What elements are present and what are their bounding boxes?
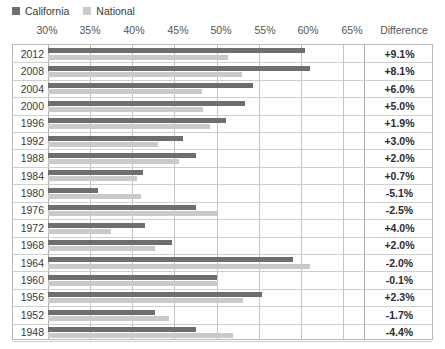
difference-value: +3.0% [365,132,434,149]
legend-item-national: National [83,5,135,17]
plot-area: 2012+9.1%2008+8.1%2004+6.0%2000+5.0%1996… [12,44,433,340]
bar-national [48,89,202,94]
bar-california [48,170,143,175]
square-swatch-icon [83,7,91,15]
chart-row: 1948-4.4% [13,324,432,341]
axis-tick-label: 30% [36,24,57,36]
chart-row: 2000+5.0% [13,97,432,114]
chart-row: 1992+3.0% [13,132,432,149]
bar-california [48,257,293,262]
bar-national [48,264,310,269]
axis-tick-label: 45% [167,24,188,36]
chart-row: 2012+9.1% [13,45,432,62]
difference-value: +5.0% [365,97,434,114]
row-divider [13,341,432,342]
chart-row: 1984+0.7% [13,167,432,184]
difference-value: -2.5% [365,202,434,219]
axis-tick-label: 55% [254,24,275,36]
difference-value: +2.0% [365,237,434,254]
difference-value: -1.7% [365,306,434,323]
square-swatch-icon [12,7,20,15]
bar-national [48,72,242,77]
difference-value: +4.0% [365,219,434,236]
chart-row: 1996+1.9% [13,115,432,132]
row-year-label: 1956 [13,289,48,306]
row-year-label: 1968 [13,237,48,254]
row-year-label: 2000 [13,97,48,114]
difference-column-header: Difference [380,24,428,36]
difference-value: +9.1% [365,45,434,62]
difference-value: +6.0% [365,80,434,97]
bar-california [48,118,226,123]
bar-california [48,223,145,228]
chart-legend: California National [12,5,135,17]
legend-item-california: California [12,5,69,17]
axis-tick-label: 50% [210,24,231,36]
axis-tick-label: 65% [341,24,362,36]
bar-national [48,159,179,164]
bar-national [48,176,137,181]
bar-california [48,83,253,88]
row-year-label: 2004 [13,80,48,97]
bar-california [48,205,196,210]
difference-value: -2.0% [365,254,434,271]
legend-label: California [25,5,69,17]
bar-national [48,333,233,338]
chart-row: 1956+2.3% [13,289,432,306]
difference-value: +1.9% [365,115,434,132]
bar-national [48,211,217,216]
chart-row: 2008+8.1% [13,62,432,79]
bar-california [48,101,245,106]
bar-national [48,124,210,129]
bar-california [48,327,196,332]
difference-value: -5.1% [365,184,434,201]
axis-tick-label: 35% [79,24,100,36]
row-year-label: 1976 [13,202,48,219]
bar-california [48,292,262,297]
legend-label: National [96,5,135,17]
difference-value: +8.1% [365,62,434,79]
axis-tick-labels: 30% 35% 40% 45% 50% 55% 60% 65% Differen… [0,24,445,44]
bar-california [48,48,305,53]
axis-tick-label: 60% [297,24,318,36]
chart-row: 1980-5.1% [13,184,432,201]
chart-row: 1952-1.7% [13,306,432,323]
row-year-label: 1984 [13,167,48,184]
bar-national [48,142,158,147]
bar-california [48,275,217,280]
row-year-label: 1964 [13,254,48,271]
row-year-label: 1972 [13,219,48,236]
chart-row: 1988+2.0% [13,149,432,166]
chart-row: 1972+4.0% [13,219,432,236]
row-year-label: 2012 [13,45,48,62]
difference-value: +0.7% [365,167,434,184]
chart-row: 2004+6.0% [13,80,432,97]
chart-row: 1964-2.0% [13,254,432,271]
chart-root: California National 30% 35% 40% 45% 50% … [0,0,445,349]
bar-national [48,107,203,112]
difference-value: -4.4% [365,324,434,341]
difference-value: -0.1% [365,271,434,288]
row-year-label: 1980 [13,184,48,201]
row-year-label: 1960 [13,271,48,288]
bar-national [48,316,169,321]
bar-national [48,55,228,60]
bar-california [48,153,196,158]
row-year-label: 1996 [13,115,48,132]
row-year-label: 1952 [13,306,48,323]
row-year-label: 2008 [13,62,48,79]
bar-california [48,310,155,315]
bar-national [48,229,111,234]
bar-california [48,188,98,193]
row-year-label: 1948 [13,324,48,341]
bar-california [48,136,183,141]
chart-row: 1976-2.5% [13,202,432,219]
axis-tick-label: 40% [123,24,144,36]
bar-california [48,66,310,71]
bar-california [48,240,172,245]
bar-national [48,298,243,303]
chart-row: 1968+2.0% [13,237,432,254]
bar-national [48,246,155,251]
row-year-label: 1988 [13,149,48,166]
row-year-label: 1992 [13,132,48,149]
